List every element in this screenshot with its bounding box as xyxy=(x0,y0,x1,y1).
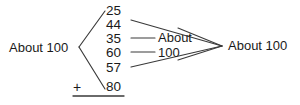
middle-group-label-line1: About xyxy=(158,31,192,45)
middle-group-label-line2: 100 xyxy=(158,46,180,60)
addend-57: 57 xyxy=(106,61,121,75)
addend-35: 35 xyxy=(106,32,121,46)
addend-80: 80 xyxy=(106,80,121,94)
addend-44: 44 xyxy=(106,18,121,32)
left-group-label: About 100 xyxy=(9,41,68,55)
plus-sign: + xyxy=(73,80,81,94)
bracket-left-lower-line xyxy=(79,47,105,89)
bracket-left-upper-line xyxy=(79,11,105,47)
addend-25: 25 xyxy=(106,4,121,18)
bracket-right-lower-line xyxy=(178,46,222,60)
right-total-label: About 100 xyxy=(228,39,287,53)
addend-60: 60 xyxy=(106,46,121,60)
estimation-diagram: About 100 25 44 35 60 57 80 + About 100 … xyxy=(0,0,300,105)
